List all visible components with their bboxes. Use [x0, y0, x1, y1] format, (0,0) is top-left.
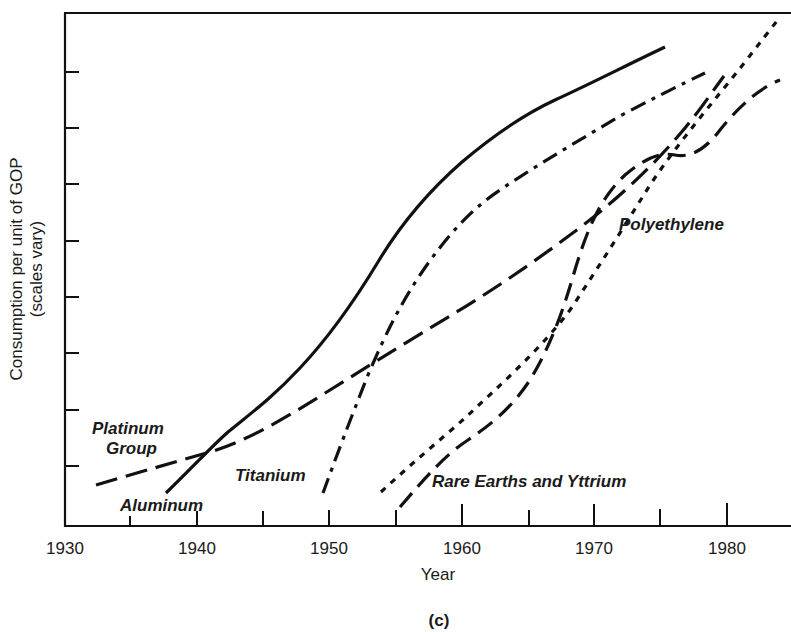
- y-axis-ticks: [65, 72, 79, 466]
- y-axis-title: Consumption per unit of GOP (scales vary…: [7, 157, 46, 380]
- x-tick-label: 1940: [178, 539, 216, 558]
- x-tick-label: 1960: [443, 539, 481, 558]
- plot-frame: [64, 13, 791, 527]
- series-platinum-group-line: [96, 76, 724, 485]
- x-tick-label: 1950: [310, 539, 348, 558]
- label-polyethylene: Polyethylene: [619, 215, 724, 234]
- series-titanium-line: [323, 73, 705, 493]
- x-tick-label: 1970: [575, 539, 613, 558]
- series-rare-earths-line: [400, 80, 780, 507]
- series-aluminum-line: [166, 47, 665, 493]
- x-axis-ticks: [130, 503, 727, 526]
- x-axis-title: Year: [421, 565, 456, 584]
- x-tick-label: 1930: [46, 539, 84, 558]
- x-axis-tick-labels: 1930 1940 1950 1960 1970 1980: [46, 539, 746, 558]
- y-axis-title-line1: Consumption per unit of GOP: [7, 157, 26, 380]
- label-rare-earths: Rare Earths and Yttrium: [432, 472, 626, 491]
- label-platinum-group-line2: Group: [106, 439, 157, 458]
- y-axis-title-line2: (scales vary): [27, 221, 46, 317]
- figure-caption: (c): [429, 611, 450, 630]
- x-tick-label: 1980: [708, 539, 746, 558]
- label-aluminum: Aluminum: [119, 496, 203, 515]
- line-chart: 1930 1940 1950 1960 1970 1980 Year Consu…: [0, 0, 791, 632]
- label-titanium: Titanium: [235, 466, 306, 485]
- label-platinum-group-line1: Platinum: [92, 419, 164, 438]
